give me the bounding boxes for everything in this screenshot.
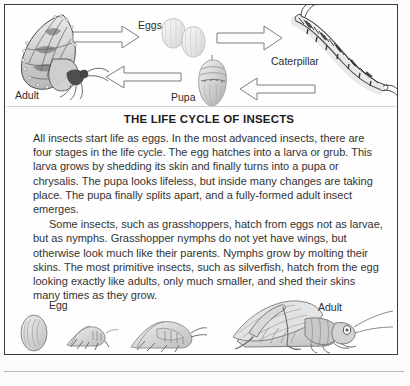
arrow-caterpillar-to-pupa (240, 78, 315, 100)
diagram-label-caterpillar: Caterpillar (271, 55, 319, 67)
pupa-chrysalis-illustration (199, 55, 227, 106)
caterpillar-illustration (295, 5, 397, 97)
page-footer-rule (4, 371, 404, 372)
strip-label-egg: Egg (49, 299, 68, 311)
scanned-page: Adult Eggs Caterpillar Pupa THE LIFE CYC… (0, 0, 410, 386)
diagram-label-pupa: Pupa (171, 91, 196, 103)
diagram-text-divider (7, 106, 395, 107)
arrow-eggs-to-caterpillar (217, 26, 282, 50)
grasshopper-nymph-2 (131, 322, 207, 352)
paragraph-1: All insects start life as eggs. In the m… (33, 131, 385, 216)
grasshopper-adult (233, 301, 393, 353)
grasshopper-nymph-1 (67, 326, 118, 350)
butterfly-life-cycle-diagram: Adult Eggs Caterpillar Pupa (5, 5, 397, 106)
grasshopper-stages-illustration: Egg Adult (5, 297, 397, 354)
butterfly-adult-illustration (21, 15, 109, 100)
diagram-label-eggs: Eggs (138, 19, 162, 31)
grasshopper-egg (21, 315, 47, 351)
eggs-illustration (162, 19, 205, 57)
paragraph-2: Some insects, such as grasshoppers, hatc… (33, 217, 385, 302)
article-body: THE LIFE CYCLE OF INSECTS All insects st… (33, 113, 385, 302)
strip-label-adult: Adult (318, 301, 342, 313)
diagram-label-adult: Adult (15, 89, 39, 101)
arrow-adult-to-eggs (73, 26, 139, 48)
arrow-pupa-to-adult (106, 66, 181, 88)
article-frame: Adult Eggs Caterpillar Pupa THE LIFE CYC… (4, 4, 398, 355)
page-title: THE LIFE CYCLE OF INSECTS (33, 113, 385, 125)
